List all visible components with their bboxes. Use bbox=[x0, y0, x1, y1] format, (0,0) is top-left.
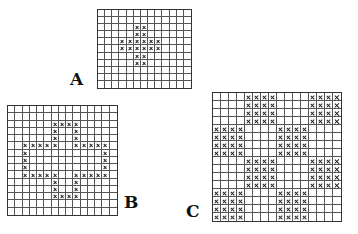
cross-stitch-cell bbox=[253, 109, 261, 117]
grid-cell bbox=[170, 24, 177, 31]
grid-cell bbox=[112, 31, 119, 38]
grid-cell bbox=[23, 200, 30, 207]
grid-cell bbox=[88, 128, 95, 135]
cross-stitch-cell bbox=[88, 142, 95, 149]
grid-cell bbox=[285, 101, 293, 109]
grid-cell bbox=[253, 141, 261, 149]
grid-cell bbox=[277, 101, 285, 109]
grid-cell bbox=[177, 81, 184, 88]
grid-cell bbox=[317, 189, 325, 197]
grid-cell bbox=[15, 121, 22, 128]
cross-stitch-cell bbox=[148, 38, 155, 45]
grid-cell bbox=[102, 135, 109, 142]
grid-cell bbox=[333, 149, 341, 157]
grid-cell bbox=[66, 113, 73, 120]
cross-stitch-cell bbox=[81, 171, 88, 178]
grid-cell bbox=[95, 157, 102, 164]
grid-cell bbox=[66, 186, 73, 193]
grid-cell bbox=[293, 117, 301, 125]
grid-cell bbox=[23, 186, 30, 193]
cross-stitch-cell bbox=[317, 109, 325, 117]
cross-stitch-cell bbox=[141, 60, 148, 67]
grid-cell bbox=[37, 179, 44, 186]
cross-stitch-cell bbox=[213, 213, 221, 221]
grid-cell bbox=[8, 121, 15, 128]
grid-cell bbox=[8, 142, 15, 149]
cross-stitch-cell bbox=[44, 171, 51, 178]
grid-cell bbox=[119, 81, 126, 88]
grid-cell bbox=[301, 157, 309, 165]
grid-cell bbox=[245, 205, 253, 213]
cross-stitch-cell bbox=[213, 197, 221, 205]
grid-cell bbox=[119, 67, 126, 74]
grid-cell bbox=[88, 121, 95, 128]
grid-cell bbox=[253, 213, 261, 221]
grid-cell bbox=[105, 74, 112, 81]
cross-stitch-cell bbox=[317, 117, 325, 125]
grid-cell bbox=[317, 205, 325, 213]
grid-cell bbox=[88, 186, 95, 193]
cross-stitch-cell bbox=[333, 157, 341, 165]
grid-cell bbox=[95, 128, 102, 135]
grid-cell bbox=[162, 67, 169, 74]
grid-cell bbox=[110, 208, 117, 215]
grid-cell bbox=[73, 150, 80, 157]
grid-cell bbox=[110, 135, 117, 142]
grid-cell bbox=[184, 67, 191, 74]
grid-cell bbox=[119, 74, 126, 81]
cross-stitch-cell bbox=[127, 38, 134, 45]
grid-cell bbox=[170, 45, 177, 52]
cross-stitch-cell bbox=[261, 117, 269, 125]
grid-cell bbox=[59, 179, 66, 186]
cross-stitch-cell bbox=[285, 133, 293, 141]
grid-cell bbox=[309, 149, 317, 157]
cross-stitch-cell bbox=[245, 173, 253, 181]
grid-cell bbox=[8, 113, 15, 120]
cross-stitch-cell bbox=[102, 164, 109, 171]
label-b: B bbox=[124, 192, 138, 212]
grid-cell bbox=[102, 200, 109, 207]
grid-cell bbox=[285, 93, 293, 101]
grid-cell bbox=[66, 179, 73, 186]
grid-cell bbox=[325, 205, 333, 213]
grid-cell bbox=[285, 165, 293, 173]
grid-cell bbox=[261, 125, 269, 133]
grid-cell bbox=[177, 74, 184, 81]
grid-cell bbox=[301, 101, 309, 109]
grid-cell bbox=[119, 24, 126, 31]
grid-cell bbox=[37, 113, 44, 120]
cross-stitch-cell bbox=[253, 117, 261, 125]
grid-cell bbox=[134, 10, 141, 17]
grid-cell bbox=[23, 121, 30, 128]
grid-cell bbox=[221, 101, 229, 109]
grid-cell bbox=[221, 93, 229, 101]
cross-stitch-cell bbox=[277, 133, 285, 141]
cross-stitch-cell bbox=[325, 117, 333, 125]
cross-stitch-cell bbox=[269, 173, 277, 181]
cross-stitch-cell bbox=[333, 173, 341, 181]
grid-cell bbox=[229, 101, 237, 109]
cross-stitch-cell bbox=[88, 171, 95, 178]
grid-cell bbox=[98, 17, 105, 24]
cross-stitch-cell bbox=[102, 142, 109, 149]
grid-cell bbox=[148, 74, 155, 81]
grid-cell bbox=[37, 150, 44, 157]
grid-cell bbox=[119, 60, 126, 67]
grid-cell bbox=[170, 60, 177, 67]
cross-stitch-cell bbox=[253, 101, 261, 109]
grid-cell bbox=[245, 189, 253, 197]
grid-cell bbox=[269, 149, 277, 157]
grid-cell bbox=[325, 141, 333, 149]
grid-cell bbox=[44, 113, 51, 120]
grid-cell bbox=[88, 200, 95, 207]
cross-stitch-cell bbox=[95, 142, 102, 149]
grid-cell bbox=[95, 121, 102, 128]
grid-cell bbox=[333, 141, 341, 149]
grid-cell bbox=[184, 38, 191, 45]
grid-cell bbox=[112, 81, 119, 88]
grid-cell bbox=[23, 179, 30, 186]
grid-cell bbox=[37, 164, 44, 171]
grid-cell bbox=[59, 200, 66, 207]
grid-cell bbox=[221, 165, 229, 173]
grid-cell bbox=[293, 101, 301, 109]
